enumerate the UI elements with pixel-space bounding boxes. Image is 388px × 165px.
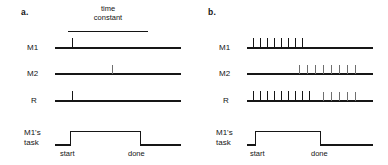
panel-b-task-pulse [255, 131, 321, 146]
row-label-line1: M1 [219, 43, 230, 52]
panel-a-row-task: M1's task start done [0, 124, 194, 165]
panel-b-m1-spike [295, 38, 296, 48]
panel-b-m2-spike [315, 65, 316, 74]
row-label-line2: task [24, 138, 41, 148]
panel-a-row-r-label: R [31, 96, 37, 105]
panel-b-m1-spike [288, 38, 289, 48]
panel-b-label: b. [208, 7, 216, 17]
panel-b-row-m1-label: M1 [219, 43, 230, 52]
panel-b-m1-spike [274, 38, 275, 48]
panel-a-task-pulse [70, 131, 141, 146]
row-label-line1: M2 [27, 69, 38, 78]
panel-b-m1-spike [253, 38, 254, 48]
panel-a-r-baseline [55, 100, 181, 102]
row-label-line1: M2 [219, 69, 230, 78]
row-label-line1: R [31, 96, 37, 105]
panel-b-r-spike [288, 91, 289, 101]
panel-b-m2-spike [355, 65, 356, 74]
panel-b-r-spike [295, 91, 296, 101]
panel-b-m1-baseline [247, 47, 373, 49]
panel-b-m2-spike [299, 65, 300, 74]
time-constant-annotation: time constant [58, 5, 158, 22]
panel-b-r-spike [281, 91, 282, 101]
panel-a-row-task-label: M1's task [24, 128, 41, 147]
panel-a-task-pre-baseline [55, 144, 71, 146]
panel-a-label: a. [21, 7, 29, 17]
panel-b-r-spike [267, 91, 268, 101]
panel-a-r-spike [72, 91, 73, 101]
panel-b-r-spike-faint [339, 92, 340, 101]
panel-b-r-spike-faint [347, 92, 348, 101]
panel-b-m1-spike [302, 38, 303, 48]
time-constant-line2: constant [58, 14, 158, 23]
panel-b-r-spike [309, 91, 310, 101]
row-label-line1: R [223, 96, 229, 105]
panel-b-m1-spike [260, 38, 261, 48]
panel-a-task-post-baseline [140, 144, 181, 146]
panel-b-row-task-label: M1's task [216, 128, 233, 147]
panel-b-r-spike [253, 91, 254, 101]
panel-b-r-spike-faint [331, 92, 332, 101]
row-label-line1: M1's [216, 128, 233, 138]
panel-b-m2-spike [307, 65, 308, 74]
panel-b-m2-spike [331, 65, 332, 74]
row-label-line2: task [216, 138, 233, 148]
panel-b: b. M1 M2 [194, 0, 388, 165]
panel-a-row-m2: M2 [0, 62, 194, 92]
panel-b-r-spike-faint [355, 92, 356, 101]
panel-b-row-task: M1's task start done [194, 124, 388, 165]
panel-a-m2-baseline [55, 73, 181, 75]
time-constant-bar [68, 31, 148, 32]
panel-b-m2-spike [339, 65, 340, 74]
panel-a-m1-spike [72, 38, 73, 48]
panel-b-m2-spike [347, 65, 348, 74]
panel-a-row-m2-label: M2 [27, 69, 38, 78]
panel-b-start-label: start [250, 149, 265, 158]
panel-b-m1-spike [281, 38, 282, 48]
panel-a-m1-baseline [55, 47, 181, 49]
panel-b-row-m2: M2 [194, 62, 388, 92]
row-label-line1: M1's [24, 128, 41, 138]
panel-b-done-label: done [311, 149, 328, 158]
panel-b-m2-spike [323, 65, 324, 74]
panel-b-r-spike [274, 91, 275, 101]
panel-b-row-r-label: R [223, 96, 229, 105]
panel-b-r-spike-faint [323, 92, 324, 101]
panel-a-m2-spike [112, 65, 113, 74]
row-label-line1: M1 [27, 43, 38, 52]
panel-b-row-m2-label: M2 [219, 69, 230, 78]
panel-b-task-post-baseline [320, 144, 373, 146]
panel-b-row-r: R [194, 89, 388, 119]
panel-a: a. time constant M1 M2 R [0, 0, 194, 165]
panel-b-r-spike [260, 91, 261, 101]
figure-root: a. time constant M1 M2 R [0, 0, 388, 165]
panel-a-row-r: R [0, 89, 194, 119]
panel-a-done-label: done [128, 149, 145, 158]
panel-a-start-label: start [60, 149, 75, 158]
panel-b-m1-spike [267, 38, 268, 48]
panel-b-r-spike [302, 91, 303, 101]
panel-a-row-m1-label: M1 [27, 43, 38, 52]
